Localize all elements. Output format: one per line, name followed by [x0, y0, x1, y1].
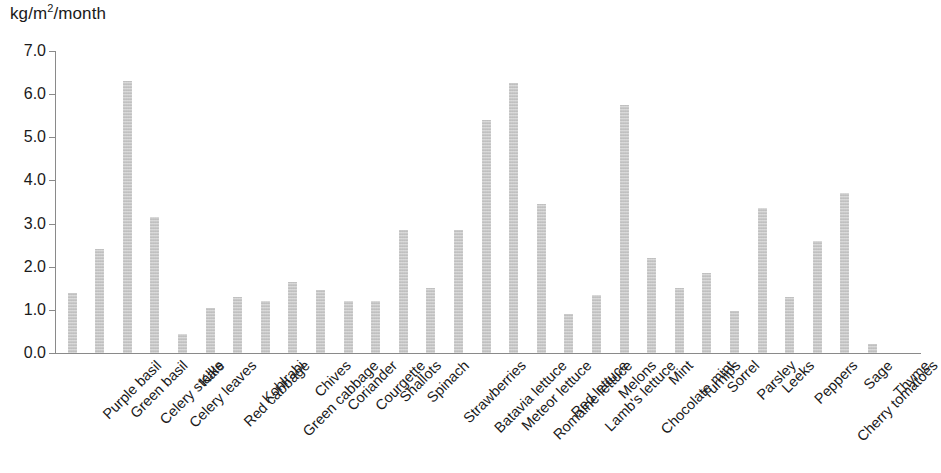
bar — [426, 288, 435, 353]
bar — [261, 301, 270, 353]
y-axis-tick-label: 2.0 — [6, 259, 46, 275]
bar — [592, 295, 601, 353]
y-axis-unit-text: kg/m — [10, 4, 47, 23]
bar — [233, 297, 242, 353]
bar — [178, 334, 187, 353]
bar — [206, 308, 215, 353]
bar — [344, 301, 353, 353]
y-axis-tick-label: 4.0 — [6, 172, 46, 188]
bar — [95, 249, 104, 353]
bar — [150, 217, 159, 353]
bar — [316, 290, 325, 353]
bar — [647, 258, 656, 353]
y-axis-tick-label: 1.0 — [6, 302, 46, 318]
bar — [620, 105, 629, 353]
x-axis-category-label-text: Peppers — [811, 358, 860, 407]
bar — [675, 288, 684, 353]
bar — [868, 344, 877, 353]
y-axis-unit-suffix: /month — [53, 4, 106, 23]
plot-area — [55, 51, 920, 353]
x-axis-line — [55, 353, 921, 354]
bar — [702, 273, 711, 353]
x-axis-category-label: Peppers — [811, 358, 860, 407]
x-axis-category-label-text: Kohlrabi — [259, 358, 307, 406]
bar — [840, 193, 849, 353]
bar — [123, 81, 132, 353]
bar — [813, 241, 822, 353]
bar — [564, 314, 573, 353]
bar — [371, 301, 380, 353]
bar — [482, 120, 491, 353]
bar — [537, 204, 546, 353]
y-axis-tick-label: 6.0 — [6, 86, 46, 102]
y-axis-tick-label: 7.0 — [6, 43, 46, 59]
bar — [68, 293, 77, 353]
x-axis-category-label: Kohlrabi — [259, 358, 307, 406]
y-axis-tick-label: 0.0 — [6, 345, 46, 361]
y-axis-tick-label: 3.0 — [6, 216, 46, 232]
bar — [785, 297, 794, 353]
y-axis-tick-mark — [49, 353, 56, 354]
bar — [454, 230, 463, 353]
bar — [730, 311, 739, 353]
bar — [399, 230, 408, 353]
bar — [509, 83, 518, 353]
y-axis-unit-label: kg/m2/month — [10, 4, 106, 24]
bar — [758, 208, 767, 353]
y-axis-tick-label: 5.0 — [6, 129, 46, 145]
bar — [288, 282, 297, 353]
